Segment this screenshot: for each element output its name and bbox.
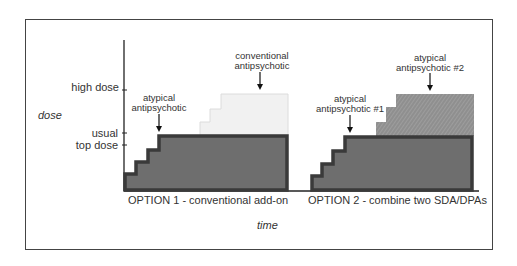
y-tick-usual: usual xyxy=(92,127,118,139)
atypical2-addon-area xyxy=(376,94,474,136)
y-tick-high-dose: high dose xyxy=(71,81,119,93)
option2-addon-label-2: antipsychotic #2 xyxy=(396,62,464,73)
arrow-down-icon xyxy=(347,127,353,133)
conventional-addon-area xyxy=(200,94,288,135)
dose-strategy-diagram: high dose usual top dose dose time atypi… xyxy=(0,0,517,266)
arrow-down-icon xyxy=(156,126,162,132)
atypical-base-area xyxy=(125,136,287,190)
option1-addon-label-2: antipsychotic xyxy=(235,60,290,71)
arrow-down-icon xyxy=(257,84,263,90)
atypical1-base-area xyxy=(312,137,472,190)
option1-chart: atypical antipsychotic conventional anti… xyxy=(125,50,290,206)
x-axis-label: time xyxy=(257,219,278,231)
arrow-down-icon xyxy=(427,85,433,91)
option2-chart: atypical antipsychotic #1 atypical antip… xyxy=(308,52,487,206)
y-tick-top-dose: top dose xyxy=(76,139,118,151)
option2-caption: OPTION 2 - combine two SDA/DPAs xyxy=(308,194,487,206)
y-axis-label: dose xyxy=(38,109,62,121)
option1-caption: OPTION 1 - conventional add-on xyxy=(128,194,288,206)
option1-base-label-2: antipsychotic xyxy=(132,102,187,113)
option2-base-label-2: antipsychotic #1 xyxy=(316,103,384,114)
